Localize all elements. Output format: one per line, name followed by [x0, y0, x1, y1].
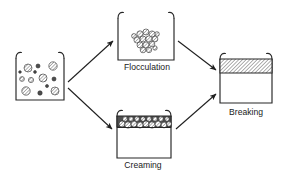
stage-creaming: Creaming: [117, 110, 171, 170]
beaker-lip-flocculation-left: [118, 12, 124, 18]
beaker-lip-creaming-left: [117, 110, 123, 116]
beaker-lip-breaking-left: [220, 53, 226, 59]
stage-initial: [16, 52, 64, 100]
label-creaming: Creaming: [124, 160, 161, 170]
arrow-flocculation-to-breaking: [178, 41, 216, 70]
beaker-lip-creaming-right: [166, 110, 172, 116]
arrow-initial-to-flocculation: [68, 41, 113, 82]
arrow-creaming-to-breaking: [176, 94, 216, 129]
emulsion-instability-diagram: Flocculation: [0, 0, 290, 180]
beaker-lip-initial-left: [16, 52, 22, 58]
stage-flocculation: Flocculation: [118, 12, 174, 72]
arrow-initial-to-creaming: [68, 88, 112, 129]
label-flocculation: Flocculation: [124, 62, 170, 72]
stage-breaking: Breaking: [220, 53, 272, 117]
beaker-lip-breaking-right: [267, 53, 273, 59]
beaker-lip-flocculation-right: [169, 12, 175, 18]
label-breaking: Breaking: [229, 107, 263, 117]
beaker-lip-initial-right: [59, 52, 65, 58]
droplets-creaming: [119, 117, 171, 129]
diagram-canvas: Flocculation: [0, 0, 290, 180]
separated-phase-band: [220, 59, 272, 73]
